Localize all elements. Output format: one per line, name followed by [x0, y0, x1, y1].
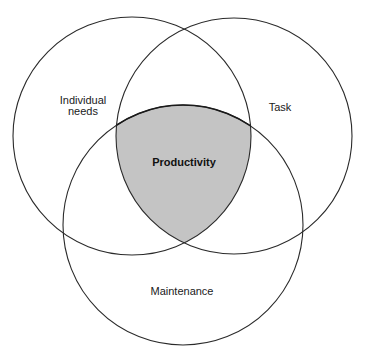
label-maintenance: Maintenance — [151, 285, 214, 297]
intersection-group — [63, 105, 303, 345]
label-productivity: Productivity — [152, 156, 216, 168]
venn-svg: Individual needs Task Productivity Maint… — [0, 0, 374, 359]
label-needs: needs — [68, 105, 98, 117]
productivity-region — [63, 105, 303, 345]
label-task: Task — [269, 101, 292, 113]
venn-diagram: Individual needs Task Productivity Maint… — [0, 0, 374, 359]
